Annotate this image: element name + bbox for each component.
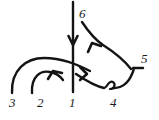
node-label-5: 5: [141, 52, 148, 65]
arc-4-to-5-segment: [113, 68, 143, 88]
arc-diagram-figure: 3 2 1 4 5 6: [0, 0, 159, 120]
node-label-1: 1: [69, 96, 76, 109]
node-label-2: 2: [37, 96, 44, 109]
node-label-4: 4: [110, 96, 117, 109]
arrowhead-upleft-on-arc-5: [88, 43, 101, 52]
arc-5-to-6-branch: [82, 22, 131, 69]
node-label-3: 3: [9, 96, 16, 109]
node-label-6: 6: [79, 7, 86, 20]
arc-2-to-1: [32, 72, 63, 93]
